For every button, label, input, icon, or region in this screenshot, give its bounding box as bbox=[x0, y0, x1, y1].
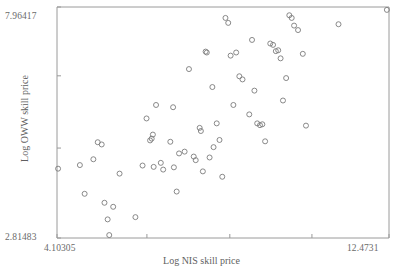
data-point bbox=[107, 233, 112, 238]
data-point bbox=[228, 53, 233, 58]
x-axis-min-tick-label: 4.10305 bbox=[44, 243, 76, 253]
data-point bbox=[140, 163, 145, 168]
data-point bbox=[292, 23, 297, 28]
data-point bbox=[171, 165, 176, 170]
data-point bbox=[105, 217, 110, 222]
x-axis-max-tick-label: 12.4731 bbox=[347, 243, 379, 253]
data-point bbox=[226, 20, 231, 25]
data-point bbox=[182, 149, 187, 154]
data-point bbox=[200, 169, 205, 174]
data-point bbox=[174, 189, 179, 194]
data-point bbox=[144, 116, 149, 121]
data-point bbox=[161, 167, 166, 172]
data-point bbox=[177, 151, 182, 156]
data-point bbox=[102, 200, 107, 205]
data-point bbox=[207, 155, 212, 160]
data-point bbox=[247, 112, 252, 117]
data-point bbox=[197, 125, 202, 130]
scatter-plot-figure: 7.96417 2.81483 4.10305 12.4731 Log NIS … bbox=[0, 0, 403, 269]
data-point bbox=[284, 76, 289, 81]
data-point bbox=[223, 15, 228, 20]
data-point bbox=[210, 85, 215, 90]
data-point bbox=[296, 28, 301, 33]
data-point bbox=[234, 50, 239, 55]
data-point bbox=[82, 191, 87, 196]
data-point bbox=[336, 22, 341, 27]
data-point bbox=[237, 74, 242, 79]
data-point bbox=[186, 67, 191, 72]
data-point bbox=[214, 121, 219, 126]
data-point bbox=[198, 129, 203, 134]
data-point bbox=[211, 145, 216, 150]
data-point bbox=[56, 166, 61, 171]
data-point bbox=[168, 139, 173, 144]
data-point bbox=[133, 215, 138, 220]
data-point bbox=[263, 139, 268, 144]
data-point bbox=[250, 37, 255, 42]
y-axis-max-tick-label: 7.96417 bbox=[5, 11, 37, 21]
y-axis-title: Log OWW skill price bbox=[19, 39, 30, 199]
data-point bbox=[91, 157, 96, 162]
data-points-group bbox=[56, 7, 390, 237]
x-axis-title: Log NIS skill price bbox=[0, 255, 403, 266]
data-point bbox=[278, 56, 283, 61]
data-point bbox=[220, 174, 225, 179]
data-point bbox=[111, 204, 116, 209]
data-point bbox=[117, 171, 122, 176]
data-point bbox=[154, 102, 159, 107]
plot-canvas bbox=[0, 0, 403, 269]
data-point bbox=[240, 77, 245, 82]
data-point bbox=[77, 163, 82, 168]
data-point bbox=[99, 142, 104, 147]
data-point bbox=[158, 160, 163, 165]
data-point bbox=[303, 123, 308, 128]
data-point bbox=[280, 98, 285, 103]
data-point bbox=[231, 102, 236, 107]
y-axis-min-tick-label: 2.81483 bbox=[5, 232, 37, 242]
data-point bbox=[300, 51, 305, 56]
data-point bbox=[151, 164, 156, 169]
data-point bbox=[217, 137, 222, 142]
data-point bbox=[171, 105, 176, 110]
data-point bbox=[252, 88, 257, 93]
